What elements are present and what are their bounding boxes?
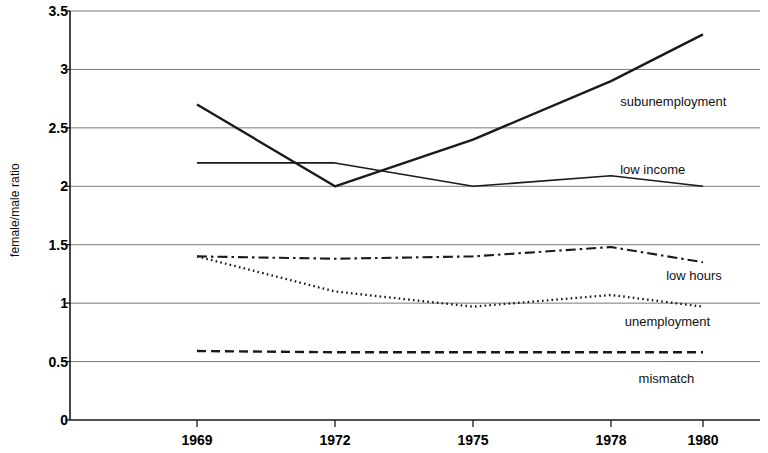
chart-container: female/male ratio 00.511.522.533.5 19691… xyxy=(0,0,768,453)
series-line-low-hours xyxy=(197,247,703,262)
series-label-unemployment: unemployment xyxy=(625,314,710,329)
series-label-low-income: low income xyxy=(620,162,685,177)
x-axis-tick-label: 1980 xyxy=(687,432,718,448)
x-axis-tick-labels: 19691972197519781980 xyxy=(0,428,768,453)
x-axis-tick-label: 1972 xyxy=(319,432,350,448)
series-label-low-hours: low hours xyxy=(666,268,722,283)
x-axis-tick-label: 1969 xyxy=(181,432,212,448)
series-line-mismatch xyxy=(197,351,703,352)
series-label-subunemployment: subunemployment xyxy=(620,94,726,109)
series-label-mismatch: mismatch xyxy=(639,371,695,386)
x-axis-tick-label: 1978 xyxy=(595,432,626,448)
x-axis-tick-label: 1975 xyxy=(457,432,488,448)
series-line-unemployment xyxy=(197,256,703,306)
